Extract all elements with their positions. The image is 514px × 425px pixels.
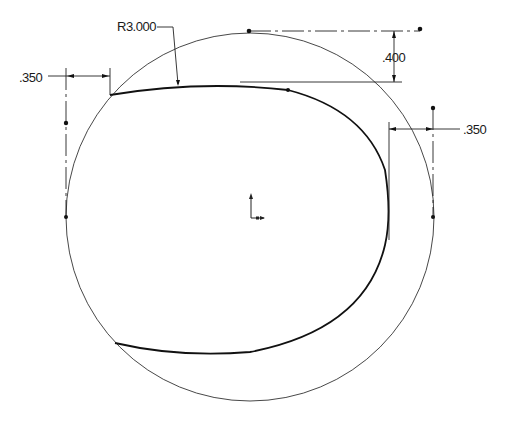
split-line-sketch[interactable] bbox=[110, 86, 389, 354]
sketch-point-right-upper[interactable] bbox=[431, 106, 435, 110]
radius-leader-line bbox=[157, 27, 178, 84]
arrow-left-right-dim-icon bbox=[389, 127, 396, 131]
sketch-point-left[interactable] bbox=[64, 215, 68, 219]
radius-dimension-label[interactable]: R3.000 bbox=[117, 19, 156, 34]
left-offset-dimension-label[interactable]: .350 bbox=[19, 70, 43, 85]
arrow-right-right-dim-icon bbox=[426, 127, 433, 131]
sphere-body[interactable] bbox=[66, 33, 434, 401]
arrow-left-icon bbox=[67, 74, 74, 78]
sketch-point-top[interactable] bbox=[247, 29, 252, 34]
radius-arrow-icon bbox=[176, 80, 180, 86]
origin-axis-icon[interactable] bbox=[249, 193, 265, 220]
arrow-up-icon bbox=[392, 31, 396, 38]
cad-drawing-canvas: R3.000 .400 .350 .350 bbox=[0, 0, 514, 425]
arrow-down-icon bbox=[392, 75, 396, 82]
top-offset-dimension-label[interactable]: .400 bbox=[382, 50, 406, 65]
arrow-right-icon bbox=[102, 74, 109, 78]
sketch-point-top-arc[interactable] bbox=[286, 88, 290, 92]
sketch-point-left-upper[interactable] bbox=[64, 121, 68, 125]
sketch-point-top-end[interactable] bbox=[418, 27, 423, 32]
right-offset-dimension-label[interactable]: .350 bbox=[463, 122, 487, 137]
sketch-point-right[interactable] bbox=[431, 215, 435, 219]
